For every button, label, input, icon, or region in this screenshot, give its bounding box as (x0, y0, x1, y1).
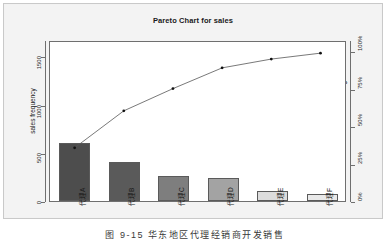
cumulative-line (75, 53, 321, 148)
x-tick-label: 代理E (275, 188, 285, 206)
x-tick-label: 代理D (225, 187, 235, 206)
data-point-marker (270, 58, 273, 61)
cumulative-line-series (50, 42, 345, 201)
data-point-marker (122, 109, 125, 112)
y2-tick-label: 0% (357, 192, 363, 201)
y2-tick-mark (351, 127, 355, 128)
x-tick-label: 代理F (324, 188, 334, 206)
y-tick-label: 0 (36, 201, 42, 204)
plot-inner (50, 42, 345, 201)
data-point-marker (73, 146, 76, 149)
plot-area (49, 41, 346, 202)
y2-tick-mark (351, 165, 355, 166)
chart-title: Pareto Chart for sales (5, 16, 381, 25)
y2-tick-label: 50% (357, 114, 363, 126)
y2-tick-mark (351, 90, 355, 91)
y2-tick-label: 75% (357, 77, 363, 89)
y2-tick-label: 100% (357, 36, 363, 51)
y-axis-title: sales frequency (29, 88, 36, 134)
y2-tick-mark (351, 202, 355, 203)
x-tick-label: 代理A (77, 188, 87, 206)
figure-page: Pareto Chart for sales 050010001500 sale… (0, 0, 390, 246)
y-tick-label: 500 (36, 153, 42, 163)
data-point-marker (172, 87, 175, 90)
y2-axis-line (350, 41, 351, 202)
x-tick-label: 代理C (176, 187, 186, 206)
figure-border: Pareto Chart for sales 050010001500 sale… (3, 3, 383, 219)
y-tick-label: 1000 (36, 105, 42, 118)
data-point-marker (221, 66, 224, 69)
y2-tick-label: 25% (357, 152, 363, 164)
data-point-marker (319, 52, 322, 55)
figure-canvas: Pareto Chart for sales 050010001500 sale… (5, 5, 381, 217)
figure-caption: 图 9-15 华东地区代理经销商开发销售 (0, 228, 390, 241)
y-axis-line (45, 41, 46, 202)
y-tick-label: 1500 (36, 56, 42, 69)
y2-tick-mark (351, 52, 355, 53)
x-tick-label: 代理B (126, 188, 136, 206)
